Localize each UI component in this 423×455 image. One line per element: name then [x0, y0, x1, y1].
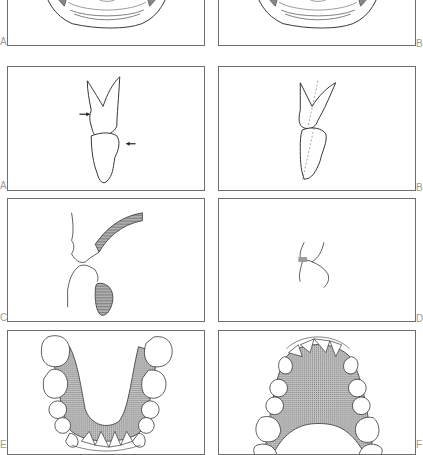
incisors-with-arrows-illustration: [8, 67, 204, 190]
panel-row4-left: [7, 330, 205, 455]
panel-row2-left: [7, 66, 205, 191]
occlusal-contact-detail-illustration: [219, 199, 415, 321]
panel-label: B: [416, 39, 423, 49]
panel-label: F: [416, 440, 422, 450]
panel-label: B: [416, 183, 423, 193]
mandibular-arch-illustration: [8, 331, 204, 454]
maxillary-arch-illustration: [219, 331, 415, 454]
panel-label: C: [0, 313, 7, 323]
panel-row4-right: [218, 330, 416, 455]
panel-label: E: [0, 440, 7, 450]
incisors-with-axes-illustration: [219, 67, 415, 190]
panel-label: D: [416, 314, 423, 324]
panel-row3-left: [7, 198, 205, 322]
panel-label: A: [0, 37, 7, 47]
jaw-cross-section-illustration: [219, 0, 415, 45]
panel-row3-right: [218, 198, 416, 322]
lip-profile-with-hatched-tissue-illustration: [8, 199, 204, 321]
panel-row1-left: [7, 0, 205, 46]
panel-row2-right: [218, 66, 416, 191]
jaw-cross-section-illustration: [8, 0, 204, 45]
panel-row1-right: [218, 0, 416, 46]
panel-label: A: [0, 181, 7, 191]
